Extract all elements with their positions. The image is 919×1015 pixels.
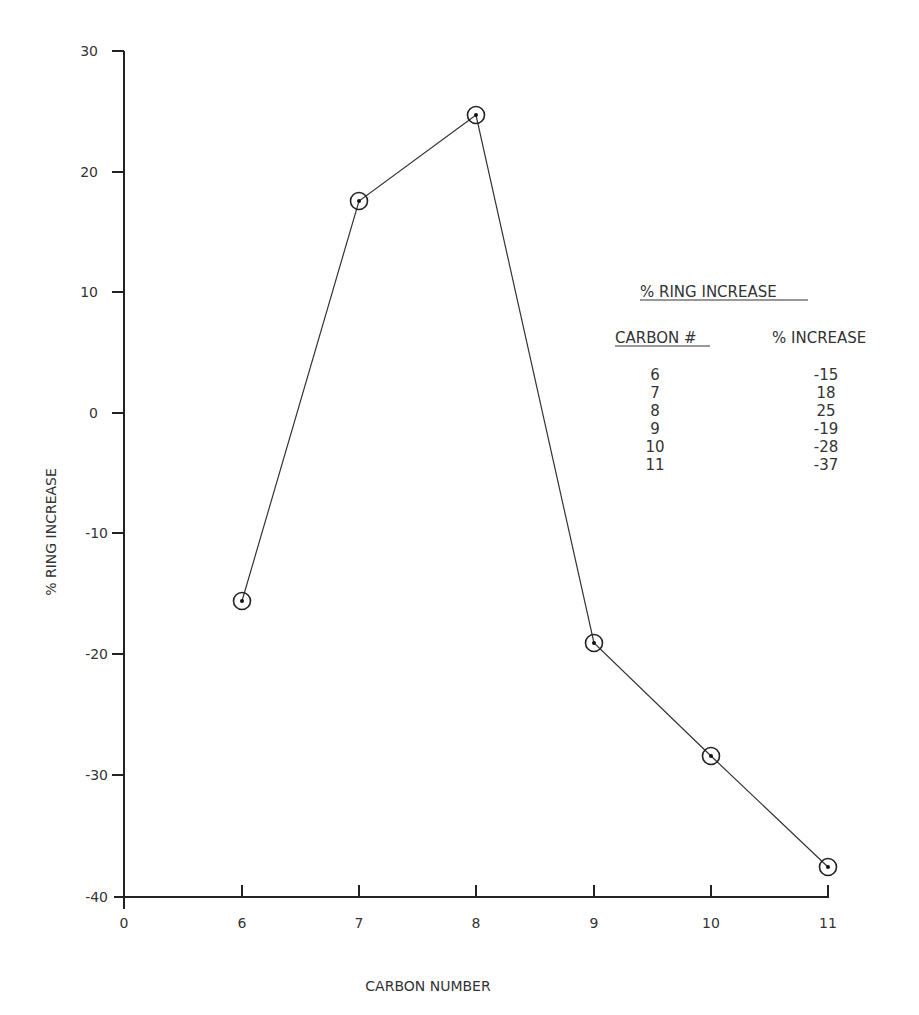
y-tick-label: -40 xyxy=(85,889,108,905)
y-tick-label: 10 xyxy=(80,284,98,300)
y-tick-label: 20 xyxy=(80,164,98,180)
table-header-carbon: CARBON # xyxy=(615,329,697,347)
table-cell: 10 xyxy=(645,438,664,456)
data-line xyxy=(242,115,828,867)
table-cell: 11 xyxy=(645,456,664,474)
x-axis-title: CARBON NUMBER xyxy=(365,978,491,994)
table-header-increase: % INCREASE xyxy=(772,329,866,347)
table-cell: -15 xyxy=(814,366,839,384)
table-cell: 9 xyxy=(650,420,660,438)
table-cell: 7 xyxy=(650,384,660,402)
table-cell: 25 xyxy=(816,402,835,420)
table-cell: -37 xyxy=(814,456,839,474)
table-cell: -19 xyxy=(814,420,839,438)
data-point-dots xyxy=(240,113,830,869)
y-tick-label: 30 xyxy=(80,43,98,59)
x-tick-label: 11 xyxy=(819,915,837,931)
table-cell: -28 xyxy=(814,438,839,456)
table-cell: 6 xyxy=(650,366,660,384)
table-title: % RING INCREASE xyxy=(640,283,777,301)
x-tick-label: 8 xyxy=(472,915,481,931)
y-axis-title: % RING INCREASE xyxy=(43,468,59,596)
y-tick-labels: 30 20 10 0 -10 -20 -30 -40 xyxy=(80,43,108,905)
y-tick-label: -20 xyxy=(85,646,108,662)
x-tick-label: 9 xyxy=(590,915,599,931)
table-cell: 18 xyxy=(816,384,835,402)
y-ticks xyxy=(112,51,124,775)
data-table: % RING INCREASE CARBON # % INCREASE 6 -1… xyxy=(615,283,866,474)
x-tick-label: 6 xyxy=(238,915,247,931)
x-tick-label: 10 xyxy=(702,915,720,931)
y-tick-label: 0 xyxy=(89,405,98,421)
y-tick-label: -10 xyxy=(85,525,108,541)
y-tick-label: -30 xyxy=(85,767,108,783)
data-markers xyxy=(234,107,837,876)
x-tick-label: 0 xyxy=(120,915,129,931)
table-cell: 8 xyxy=(650,402,660,420)
x-tick-label: 7 xyxy=(355,915,364,931)
x-tick-labels: 0 6 7 8 9 10 11 xyxy=(120,915,837,931)
chart: 30 20 10 0 -10 -20 -30 -40 0 6 7 8 9 10 … xyxy=(0,0,919,1015)
